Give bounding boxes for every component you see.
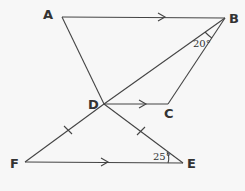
parallel-arrow-icon xyxy=(158,13,165,21)
geometry-diagram: A B C D E F 20° 25° xyxy=(0,0,245,191)
label-d: D xyxy=(88,97,99,112)
angle-label-dbc: 20° xyxy=(193,38,211,49)
segment-ad xyxy=(62,17,104,104)
label-c: C xyxy=(164,106,174,121)
segment-df xyxy=(25,104,104,162)
label-f: F xyxy=(10,156,19,171)
label-b: B xyxy=(229,11,239,26)
segment-fe xyxy=(25,162,183,163)
segment-ab xyxy=(62,17,225,18)
segment-db xyxy=(104,18,225,104)
label-e: E xyxy=(187,156,196,171)
angle-label-def: 25° xyxy=(153,151,171,162)
segment-bc xyxy=(168,18,225,104)
label-a: A xyxy=(43,7,53,22)
